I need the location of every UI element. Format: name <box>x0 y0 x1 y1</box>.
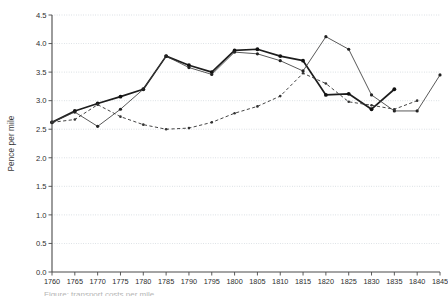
data-point <box>119 115 122 118</box>
y-tick-label: 1.5 <box>36 182 47 191</box>
x-tick-label: 1760 <box>44 277 60 286</box>
x-tick-label: 1790 <box>181 277 197 286</box>
data-point <box>347 92 351 96</box>
data-point <box>325 82 328 85</box>
data-point <box>210 73 213 76</box>
data-point <box>188 127 191 130</box>
y-tick-label: 1.0 <box>36 211 47 220</box>
data-point <box>256 52 259 55</box>
y-axis-ticks-group: 0.00.51.01.52.02.53.03.54.04.5 <box>36 11 52 277</box>
line-chart: 0.00.51.01.52.02.53.03.54.04.5 176017651… <box>0 0 448 296</box>
data-point <box>96 103 99 106</box>
data-point <box>301 59 305 63</box>
figure-caption-text: Figure: transport costs per mile <box>44 290 274 296</box>
data-point <box>165 55 168 58</box>
x-tick-label: 1800 <box>226 277 242 286</box>
data-point <box>73 110 76 113</box>
chart-container: 0.00.51.01.52.02.53.03.54.04.5 176017651… <box>0 0 448 296</box>
x-tick-label: 1775 <box>112 277 128 286</box>
y-axis-title: Pence per mile <box>7 115 16 171</box>
x-tick-label: 1785 <box>158 277 174 286</box>
data-point <box>187 66 190 69</box>
data-point <box>256 47 260 51</box>
data-point <box>438 73 441 76</box>
data-point <box>324 93 328 97</box>
series-line-series-thick-solid <box>52 49 394 122</box>
data-point <box>416 99 419 102</box>
y-tick-label: 3.0 <box>36 96 47 105</box>
x-tick-label: 1805 <box>249 277 265 286</box>
figure-caption: Figure: transport costs per mile <box>44 290 274 296</box>
data-point <box>233 112 236 115</box>
data-series-group <box>50 35 442 130</box>
x-tick-label: 1835 <box>386 277 402 286</box>
x-tick-label: 1780 <box>135 277 151 286</box>
data-point <box>233 51 236 54</box>
data-point <box>416 109 419 112</box>
data-point <box>119 108 122 111</box>
data-point <box>347 101 350 104</box>
x-axis-ticks-group: 1760176517701775178017851790179518001805… <box>44 272 448 286</box>
x-tick-label: 1795 <box>204 277 220 286</box>
data-point <box>165 128 168 131</box>
data-point <box>370 93 373 96</box>
y-tick-label: 2.5 <box>36 125 47 134</box>
data-point <box>302 72 305 75</box>
data-point <box>279 59 282 62</box>
data-point <box>96 125 99 128</box>
data-point <box>370 107 374 111</box>
data-point <box>279 95 282 98</box>
data-point <box>256 105 259 108</box>
data-point <box>142 123 145 126</box>
x-tick-label: 1770 <box>90 277 106 286</box>
data-point <box>324 35 327 38</box>
data-point <box>393 108 396 111</box>
data-point <box>278 54 282 58</box>
x-tick-label: 1765 <box>67 277 83 286</box>
data-point <box>74 118 77 121</box>
data-point <box>370 104 373 107</box>
data-point <box>119 95 123 99</box>
data-point <box>210 121 213 124</box>
x-tick-label: 1820 <box>318 277 334 286</box>
y-tick-label: 4.0 <box>36 39 47 48</box>
y-tick-label: 3.5 <box>36 68 47 77</box>
y-tick-label: 0.0 <box>36 268 47 277</box>
y-tick-label: 2.0 <box>36 154 47 163</box>
data-point <box>142 88 145 91</box>
y-tick-label: 0.5 <box>36 239 47 248</box>
x-tick-label: 1840 <box>409 277 425 286</box>
data-point <box>392 87 396 91</box>
x-tick-label: 1815 <box>295 277 311 286</box>
data-point <box>347 48 350 51</box>
y-tick-label: 4.5 <box>36 11 47 20</box>
x-tick-label: 1845 <box>432 277 448 286</box>
x-tick-label: 1825 <box>341 277 357 286</box>
data-point <box>51 121 54 124</box>
x-tick-label: 1830 <box>363 277 379 286</box>
x-tick-label: 1810 <box>272 277 288 286</box>
